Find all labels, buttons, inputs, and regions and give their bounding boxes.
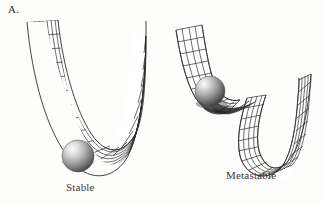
metastable-well-surface	[176, 25, 311, 184]
energy-landscape-figure: A.	[0, 0, 323, 203]
stable-well-surface	[27, 19, 146, 176]
metastable-ball	[195, 76, 225, 106]
stable-ball	[62, 140, 94, 172]
caption-stable: Stable	[66, 181, 95, 193]
caption-metastable: Metastable	[226, 169, 276, 181]
